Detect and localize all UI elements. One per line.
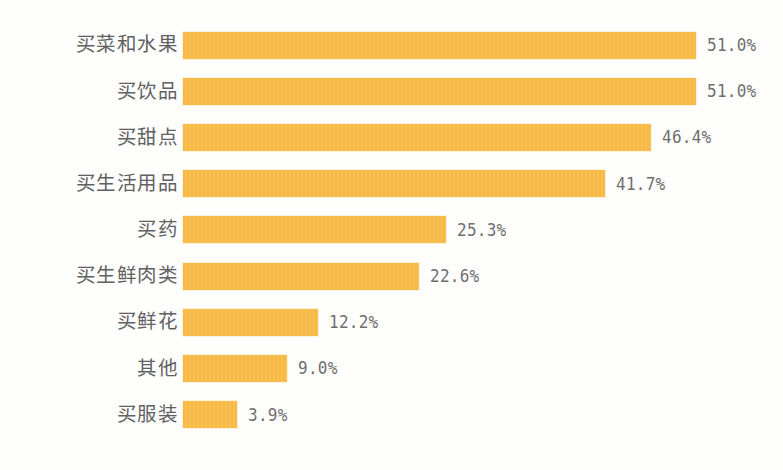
- bar-track: 51.0%: [178, 32, 783, 59]
- bar-track: 12.2%: [178, 309, 783, 336]
- bar-value-label: 25.3%: [457, 220, 507, 240]
- bar-row: 买生活用品 41.7%: [0, 161, 783, 207]
- bar-value-label: 41.7%: [616, 174, 666, 194]
- bar-segment: [183, 355, 287, 382]
- bar-row: 买生鲜肉类 22.6%: [0, 253, 783, 299]
- bar-track: 25.3%: [178, 216, 783, 243]
- bar-row: 买药 25.3%: [0, 207, 783, 253]
- category-label: 买鲜花: [0, 312, 178, 332]
- plot-area: 买菜和水果 51.0% 买饮品 51.0% 买甜点 46.4% 买生活用品: [0, 22, 783, 452]
- bar-row: 买菜和水果 51.0%: [0, 22, 783, 68]
- category-label: 买生活用品: [0, 174, 178, 194]
- bar-value-label: 12.2%: [329, 312, 379, 332]
- bar-segment: [183, 170, 605, 197]
- bar-chart: 买菜和水果 51.0% 买饮品 51.0% 买甜点 46.4% 买生活用品: [0, 0, 783, 470]
- bar-value-label: 3.9%: [248, 405, 288, 425]
- bar-segment: [183, 216, 446, 243]
- bar-segment: [183, 309, 318, 336]
- bar-value-label: 22.6%: [430, 266, 480, 286]
- category-label: 买服装: [0, 405, 178, 425]
- category-label: 其他: [0, 359, 178, 379]
- bar-segment: [183, 32, 696, 59]
- bar-track: 51.0%: [178, 78, 783, 105]
- bar-value-label: 46.4%: [662, 127, 712, 147]
- bar-segment: [183, 263, 419, 290]
- category-label: 买饮品: [0, 82, 178, 102]
- bar-track: 9.0%: [178, 355, 783, 382]
- bar-row: 买鲜花 12.2%: [0, 299, 783, 345]
- bar-track: 41.7%: [178, 170, 783, 197]
- bar-segment: [183, 78, 696, 105]
- bar-row: 买甜点 46.4%: [0, 114, 783, 160]
- bar-row: 买服装 3.9%: [0, 392, 783, 438]
- bar-track: 46.4%: [178, 124, 783, 151]
- category-label: 买生鲜肉类: [0, 266, 178, 286]
- bar-value-label: 9.0%: [298, 358, 338, 378]
- bar-value-label: 51.0%: [707, 35, 757, 55]
- bar-value-label: 51.0%: [707, 81, 757, 101]
- bar-segment: [183, 124, 651, 151]
- bar-segment: [183, 401, 237, 428]
- category-label: 买甜点: [0, 128, 178, 148]
- bar-row: 买饮品 51.0%: [0, 68, 783, 114]
- category-label: 买药: [0, 220, 178, 240]
- bar-track: 22.6%: [178, 263, 783, 290]
- bar-row: 其他 9.0%: [0, 345, 783, 391]
- category-label: 买菜和水果: [0, 35, 178, 55]
- bar-track: 3.9%: [178, 401, 783, 428]
